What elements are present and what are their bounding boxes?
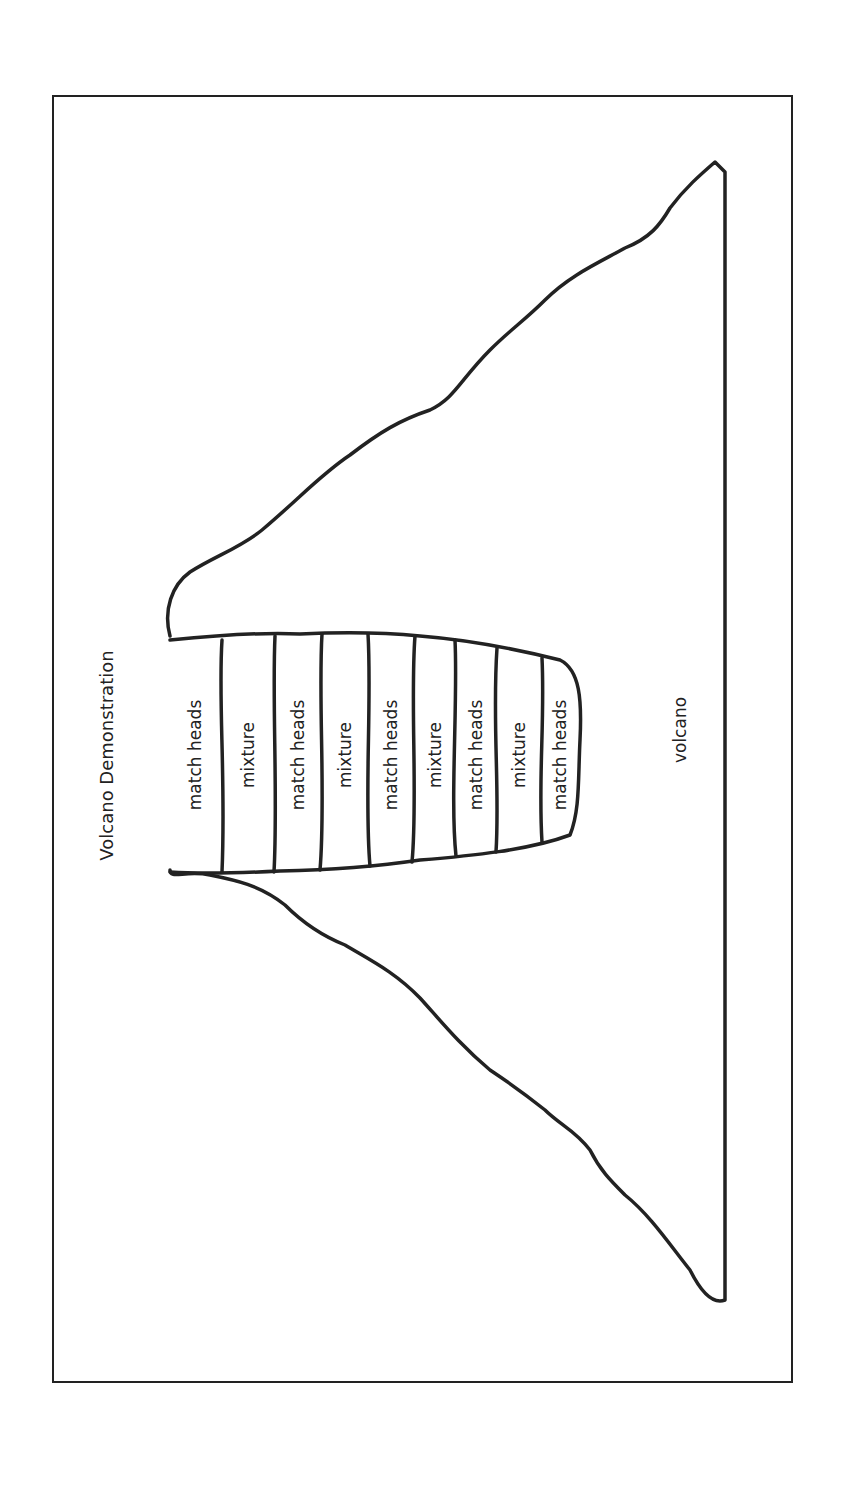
layer-label: mixture <box>335 695 355 815</box>
volcano-label: volcano <box>670 680 690 780</box>
layer-label: mixture <box>425 695 445 815</box>
layer-label: match heads <box>550 695 570 815</box>
layer-label: mixture <box>509 695 529 815</box>
layer-label: match heads <box>288 695 308 815</box>
layer-label: match heads <box>185 695 205 815</box>
diagram-title: Volcano Demonstration <box>96 646 117 866</box>
layer-label: mixture <box>238 695 258 815</box>
layer-label: match heads <box>466 695 486 815</box>
layer-label: match heads <box>381 695 401 815</box>
